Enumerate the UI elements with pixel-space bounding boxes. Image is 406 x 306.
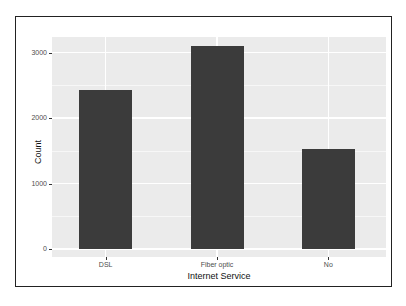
y-tick-mark — [49, 249, 52, 250]
y-tick-mark — [49, 184, 52, 185]
x-tick-mark — [106, 257, 107, 260]
y-tick-label: 0 — [17, 245, 47, 252]
y-tick-label: 2000 — [17, 114, 47, 121]
x-tick-label: DSL — [76, 261, 136, 268]
y-tick-label: 3000 — [17, 49, 47, 56]
x-axis-label: Internet Service — [52, 271, 386, 281]
y-tick-mark — [49, 118, 52, 119]
y-tick-mark — [49, 53, 52, 54]
x-tick-mark — [217, 257, 218, 260]
x-tick-label: No — [298, 261, 358, 268]
y-axis-label: Count — [33, 132, 43, 172]
x-tick-mark — [328, 257, 329, 260]
bar-no — [302, 149, 355, 249]
plot-panel — [52, 37, 386, 257]
x-tick-label: Fiber optic — [187, 261, 247, 268]
y-tick-label: 1000 — [17, 180, 47, 187]
bar-fiber-optic — [191, 46, 244, 249]
bar-dsl — [79, 90, 132, 249]
